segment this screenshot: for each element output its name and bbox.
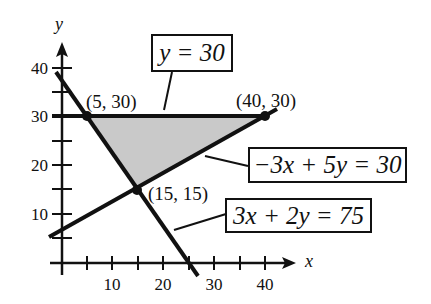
leader-line-eq2 [205, 156, 248, 166]
y-tick-label-10: 10 [31, 205, 48, 224]
vertex-label-15-15: (15, 15) [148, 183, 208, 205]
y-tick-label-40: 40 [31, 59, 48, 78]
equation-box-3x-plus-2y: 3x + 2y = 75 [225, 198, 372, 233]
x-tick-label-30: 30 [206, 275, 223, 294]
leader-line-eq1 [164, 72, 172, 110]
y-axis-label: y [53, 14, 63, 34]
x-axis-label: x [304, 251, 313, 271]
x-tick-label-40: 40 [257, 275, 274, 294]
vertex-5-30 [82, 111, 92, 121]
equation-box-y-equals-30: y = 30 [151, 34, 233, 72]
vertex-label-40-30: (40, 30) [236, 90, 296, 112]
x-tick-label-20: 20 [155, 275, 172, 294]
vertex-15-15 [132, 185, 142, 195]
y-tick-label-20: 20 [31, 156, 48, 175]
equation-label: 3x + 2y = 75 [233, 202, 364, 230]
equation-label: −3x + 5y = 30 [254, 151, 402, 179]
equation-label: y = 30 [159, 39, 224, 67]
equation-box-neg3x-plus-5y: −3x + 5y = 30 [248, 147, 407, 183]
x-tick-label-10: 10 [104, 275, 121, 294]
vertex-40-30 [260, 111, 270, 121]
vertex-label-5-30: (5, 30) [86, 91, 137, 113]
y-tick-label-30: 30 [31, 107, 48, 126]
leader-line-eq3 [174, 214, 226, 230]
